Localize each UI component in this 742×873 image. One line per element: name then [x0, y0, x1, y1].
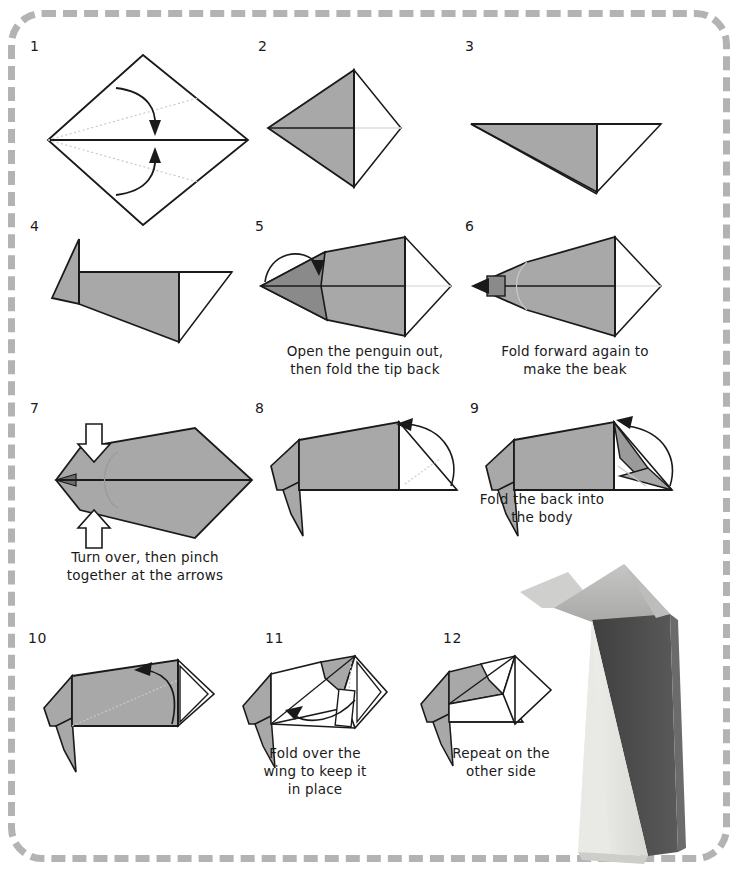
- body-gray: [72, 660, 178, 726]
- step-10-diagram: [28, 644, 243, 794]
- white-flap: [597, 124, 661, 192]
- step-8-diagram: [255, 414, 480, 564]
- finished-penguin-photo: [520, 556, 728, 868]
- step-9-diagram: [470, 414, 695, 564]
- head-flap-gray: [421, 672, 449, 722]
- body-gray: [299, 422, 399, 490]
- step-7-caption: Turn over, then pinch together at the ar…: [40, 548, 250, 584]
- step-2-diagram: [266, 50, 486, 210]
- tail-white: [399, 422, 457, 490]
- origami-instruction-sheet: 1 2 3: [0, 0, 742, 873]
- step-1-diagram: [38, 50, 298, 230]
- step-6-diagram: [465, 232, 685, 357]
- body-gray: [79, 272, 179, 342]
- penguin-photo-svg: [520, 556, 728, 868]
- beak-block: [487, 276, 505, 296]
- beak-tip: [473, 278, 489, 294]
- body-gray: [514, 422, 614, 490]
- step-4-diagram: [34, 232, 249, 372]
- step-number-3: 3: [465, 38, 474, 54]
- head-flap-gray: [44, 676, 72, 726]
- head-flap-gray: [271, 440, 299, 490]
- step-5-caption: Open the penguin out, then fold the tip …: [250, 342, 480, 378]
- step-number-7: 7: [30, 400, 39, 416]
- head-flap-gray: [486, 440, 514, 490]
- step-6-caption: Fold forward again to make the beak: [460, 342, 690, 378]
- step-9-caption: Fold the back into the body: [442, 490, 642, 526]
- tuck-tab: [335, 689, 355, 726]
- step-3-diagram: [469, 64, 679, 204]
- step-11-caption: Fold over the wing to keep it in place: [225, 744, 405, 799]
- step-5-diagram: [255, 232, 475, 357]
- head-flap-gray: [52, 239, 79, 304]
- tail-white: [179, 272, 232, 342]
- step-7-diagram: [30, 418, 260, 558]
- head-flap-gray: [243, 674, 271, 724]
